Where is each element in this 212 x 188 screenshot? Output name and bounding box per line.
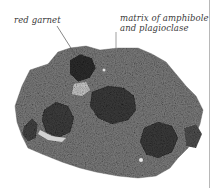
rock-specimen-illustration (0, 0, 212, 188)
page-edge-divider (209, 0, 210, 188)
